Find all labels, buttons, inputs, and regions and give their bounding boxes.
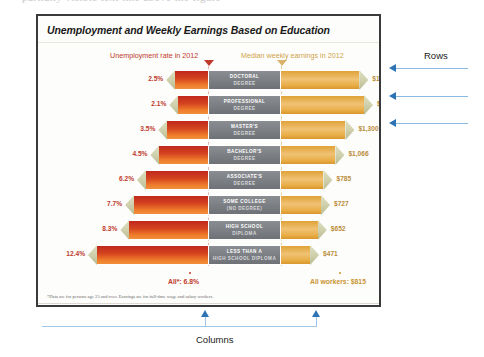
education-level-line2: DEGREE: [233, 105, 255, 112]
unemployment-total-label: All*: 6.8%: [168, 278, 199, 285]
annotation-columns-bracket: [42, 326, 316, 327]
earnings-total-label: All workers: $815: [310, 278, 366, 285]
annotation-rows-arrow-line: [396, 68, 468, 69]
infographic-panel: Unemployment and Weekly Earnings Based o…: [36, 14, 381, 307]
earnings-value-label: $785: [336, 175, 351, 182]
education-level-line2: DEGREE: [233, 155, 255, 162]
bar-body: [178, 95, 208, 115]
education-level-line1: BACHELOR'S: [227, 148, 262, 155]
education-level-label: HIGH SCHOOLDIPLOMA: [208, 220, 281, 240]
earnings-bar: [281, 120, 354, 140]
unemployment-bar: [166, 70, 208, 90]
bar-body: [281, 245, 310, 265]
bar-tip-left-icon: [120, 220, 129, 240]
education-level-label: BACHELOR'SDEGREE: [208, 145, 281, 165]
chart-rows: 2.5%DOCTORALDEGREE$1,6242.1%PROFESSIONAL…: [38, 68, 379, 268]
annotation-rows-arrow-line: [396, 123, 468, 124]
annotation-columns-arrowhead-icon: [312, 310, 320, 317]
education-level-line1: PROFESSIONAL: [224, 98, 266, 105]
bar-body: [281, 70, 359, 90]
unemployment-value-label: 3.5%: [38, 125, 155, 132]
bar-body: [134, 195, 208, 215]
chart-row: 6.2%ASSOCIATE'SDEGREE$785: [38, 168, 379, 192]
bar-tip-right-icon: [318, 220, 327, 240]
education-level-line1: DOCTORAL: [230, 73, 260, 80]
bar-tip-left-icon: [169, 95, 178, 115]
chart-row: 12.4%LESS THAN AHIGH SCHOOL DIPLOMA$471: [38, 243, 379, 267]
bar-tip-right-icon: [345, 120, 354, 140]
title-divider: [38, 42, 379, 43]
earnings-bar: [281, 195, 330, 215]
education-level-line1: HIGH SCHOOL: [226, 223, 263, 230]
annotation-rows-label: Rows: [424, 50, 448, 61]
unemployment-value-label: 4.5%: [38, 150, 147, 157]
bar-tip-left-icon: [166, 70, 175, 90]
annotation-rows-arrowhead-icon: [389, 64, 396, 72]
bar-body: [281, 220, 318, 240]
annotation-columns-arrow-line: [316, 316, 317, 327]
cut-off-text-above-figure: partially visible text line above the fi…: [0, 0, 484, 14]
education-level-label: MASTER'SDEGREE: [208, 120, 281, 140]
unemployment-bar: [137, 170, 208, 190]
bar-tip-right-icon: [359, 70, 368, 90]
chart-row: 3.5%MASTER'SDEGREE$1,300: [38, 118, 379, 142]
unemployment-bar: [88, 245, 208, 265]
unemployment-total-marker-icon: [189, 272, 191, 274]
earnings-pointer-icon: [277, 60, 287, 66]
annotation-columns-arrowhead-icon: [201, 310, 209, 317]
unemployment-bar: [169, 95, 208, 115]
unemployment-pointer-icon: [204, 60, 214, 66]
chart-row: 8.3%HIGH SCHOOLDIPLOMA$652: [38, 218, 379, 242]
unemployment-value-label: 6.2%: [38, 175, 134, 182]
education-level-line2: DEGREE: [233, 80, 255, 87]
bar-tip-left-icon: [137, 170, 146, 190]
education-level-label: SOME COLLEGE(NO DEGREE): [208, 195, 281, 215]
bar-body: [281, 120, 345, 140]
chart-row: 2.1%PROFESSIONALDEGREE$1,735: [38, 93, 379, 117]
education-level-line1: ASSOCIATE'S: [227, 173, 263, 180]
unemployment-value-label: 2.1%: [38, 100, 166, 107]
bar-tip-left-icon: [125, 195, 134, 215]
education-level-line2: DIPLOMA: [232, 230, 256, 237]
bar-body: [129, 220, 208, 240]
earnings-bar: [281, 170, 332, 190]
unemployment-bar: [120, 220, 208, 240]
unemployment-value-label: 8.3%: [38, 225, 117, 232]
education-level-label: ASSOCIATE'SDEGREE: [208, 170, 281, 190]
annotation-columns-label: Columns: [196, 334, 234, 345]
education-level-line2: HIGH SCHOOL DIPLOMA: [213, 255, 276, 262]
source-divider: [38, 303, 379, 304]
bar-body: [146, 170, 208, 190]
education-level-line1: SOME COLLEGE: [223, 198, 265, 205]
earnings-value-label: $727: [334, 200, 349, 207]
bar-tip-right-icon: [335, 145, 344, 165]
earnings-bar: [281, 145, 344, 165]
bar-tip-left-icon: [88, 245, 97, 265]
education-level-line2: DEGREE: [233, 130, 255, 137]
education-level-line2: DEGREE: [233, 180, 255, 187]
chart-row: 7.7%SOME COLLEGE(NO DEGREE)$727: [38, 193, 379, 217]
annotation-rows-arrow-line: [396, 96, 468, 97]
education-level-line1: MASTER'S: [231, 123, 258, 130]
unemployment-bar: [125, 195, 208, 215]
column-header-earnings: Median weekly earnings in 2012: [241, 51, 344, 60]
chart-row: 4.5%BACHELOR'SDEGREE$1,066: [38, 143, 379, 167]
bar-body: [281, 195, 321, 215]
bar-body: [175, 70, 208, 90]
earnings-total-marker-icon: [339, 272, 341, 274]
earnings-value-label: $652: [331, 225, 346, 232]
bar-tip-right-icon: [364, 95, 373, 115]
education-level-label: PROFESSIONALDEGREE: [208, 95, 281, 115]
chart-row: 2.5%DOCTORALDEGREE$1,624: [38, 68, 379, 92]
bar-body: [281, 95, 364, 115]
earnings-bar: [281, 95, 373, 115]
chart-title: Unemployment and Weekly Earnings Based o…: [47, 24, 330, 36]
footnote: *Data are for persons age 25 and over. E…: [47, 294, 213, 299]
earnings-bar: [281, 245, 319, 265]
unemployment-value-label: 7.7%: [38, 200, 122, 207]
earnings-value-label: $471: [323, 250, 338, 257]
earnings-value-label: $1,066: [348, 150, 368, 157]
bar-tip-right-icon: [310, 245, 319, 265]
unemployment-value-label: 12.4%: [38, 250, 85, 257]
bar-body: [281, 145, 335, 165]
